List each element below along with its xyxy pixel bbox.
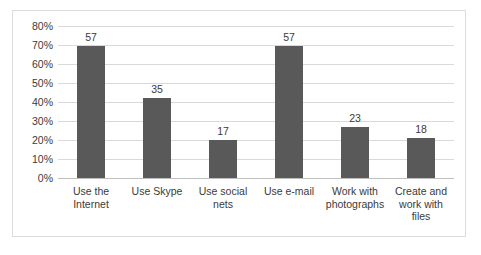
bar-value-label: 17 [217,126,229,137]
gridline [58,159,454,160]
bar [143,98,171,178]
y-axis-tick-label: 80% [13,21,53,31]
bar-slot: 18 [407,26,435,178]
x-axis-tick-label-line: photographs [322,198,388,211]
y-axis-tick-label: 40% [13,97,53,107]
bar-value-label: 57 [283,32,295,43]
chart-frame: 80%70%60%50%40%30%20%10%0% 573517572318 … [12,10,466,237]
x-axis-tick-label: Use socialnets [190,185,256,210]
x-axis-tick-label-line: Use the [58,185,124,198]
x-axis-tick-label: Use e-mail [256,185,322,198]
y-axis-tick-label: 70% [13,40,53,50]
gridline [58,64,454,65]
x-axis-tick-label: Use Skype [124,185,190,198]
y-axis-tick-label: 60% [13,59,53,69]
bar-value-label: 18 [415,124,427,135]
y-axis-tick-label: 0% [13,173,53,183]
x-axis: Use theInternetUse SkypeUse socialnetsUs… [58,181,454,233]
gridline [58,26,454,27]
x-axis-tick-label-line: Use e-mail [256,185,322,198]
gridline [58,140,454,141]
bar [407,138,435,178]
y-axis-tick-label: 30% [13,116,53,126]
y-axis-tick-label: 50% [13,78,53,88]
y-axis-tick-label: 20% [13,135,53,145]
gridline [58,83,454,84]
x-axis-tick-label: Use theInternet [58,185,124,210]
bar [275,46,303,178]
x-axis-line [58,178,454,179]
gridline [58,102,454,103]
x-axis-tick-label-line: Use social [190,185,256,198]
x-axis-tick-label-line: Work with [322,185,388,198]
bar-value-label: 35 [151,84,163,95]
x-axis-tick-label: Work withphotographs [322,185,388,210]
bar-slot: 23 [341,26,369,178]
x-axis-tick-label-line: files [388,210,454,223]
y-axis-tick-label: 10% [13,154,53,164]
bar [77,46,105,178]
bar-value-label: 23 [349,113,361,124]
bar-value-label: 57 [85,32,97,43]
plot-area: 573517572318 [58,26,454,178]
bar-slot: 57 [275,26,303,178]
gridline [58,45,454,46]
x-axis-tick-label-line: Use Skype [124,185,190,198]
bar-slot: 57 [77,26,105,178]
x-axis-tick-label-line: Create and [388,185,454,198]
x-axis-tick-label-line: Internet [58,198,124,211]
bar-slot: 17 [209,26,237,178]
bar-slot: 35 [143,26,171,178]
x-axis-tick-label: Create andwork withfiles [388,185,454,223]
y-axis: 80%70%60%50%40%30%20%10%0% [13,26,53,178]
x-axis-tick-label-line: nets [190,198,256,211]
bar [209,140,237,178]
x-axis-tick-label-line: work with [388,198,454,211]
bar [341,127,369,178]
gridline [58,121,454,122]
